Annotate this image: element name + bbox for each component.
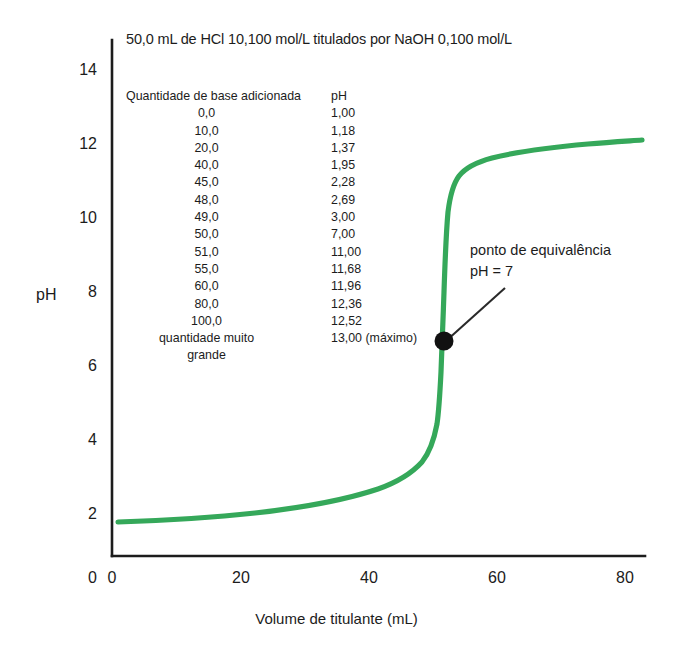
y-tick-8: 8 xyxy=(57,283,97,301)
table-row-tail: quantidade muito 13,00 (máximo) xyxy=(126,330,451,347)
y-tick-4: 4 xyxy=(57,431,97,449)
x-axis-label: Volume de titulante (mL) xyxy=(0,610,673,627)
y-tick-14: 14 xyxy=(57,61,97,79)
table-row: 55,0 11,68 xyxy=(126,261,451,278)
cell-ph: 12,52 xyxy=(331,313,451,330)
annotation-leader-line xyxy=(446,288,505,341)
cell-volume: 10,0 xyxy=(126,123,331,140)
table-row: 10,0 1,18 xyxy=(126,123,451,140)
table-header-volume: Quantidade de base adicionada xyxy=(126,88,331,105)
y-tick-12: 12 xyxy=(57,135,97,153)
table-row: 51,0 11,00 xyxy=(126,244,451,261)
table-row: 40,0 1,95 xyxy=(126,157,451,174)
cell-ph: 1,95 xyxy=(331,157,451,174)
x-tick-20: 20 xyxy=(216,569,266,587)
equivalence-point-annotation: ponto de equivalência pH = 7 xyxy=(470,240,611,282)
titration-curve-figure: 50,0 mL de HCl 10,100 mol/L titulados po… xyxy=(0,0,673,656)
cell-ph: 1,37 xyxy=(331,140,451,157)
cell-volume: 49,0 xyxy=(126,209,331,226)
x-tick-0: 0 xyxy=(87,569,137,587)
y-axis-label: pH xyxy=(36,286,56,304)
titration-data-table: Quantidade de base adicionada pH 0,0 1,0… xyxy=(126,88,451,365)
table-header-ph: pH xyxy=(331,88,451,105)
cell-ph: 1,00 xyxy=(331,105,451,122)
annotation-line-2: pH = 7 xyxy=(470,261,611,282)
y-tick-10: 10 xyxy=(57,209,97,227)
cell-ph: 2,69 xyxy=(331,192,451,209)
cell-volume: 100,0 xyxy=(126,313,331,330)
cell-ph-tail: 13,00 (máximo) xyxy=(331,330,451,347)
cell-ph: 7,00 xyxy=(331,226,451,243)
x-tick-60: 60 xyxy=(472,569,522,587)
table-row: 20,0 1,37 xyxy=(126,140,451,157)
cell-volume: 51,0 xyxy=(126,244,331,261)
cell-volume: 50,0 xyxy=(126,226,331,243)
cell-volume: 48,0 xyxy=(126,192,331,209)
cell-ph: 11,68 xyxy=(331,261,451,278)
table-row: 80,0 12,36 xyxy=(126,296,451,313)
cell-volume: 80,0 xyxy=(126,296,331,313)
x-tick-80: 80 xyxy=(600,569,650,587)
cell-ph: 11,00 xyxy=(331,244,451,261)
cell-ph: 1,18 xyxy=(331,123,451,140)
table-row: 48,0 2,69 xyxy=(126,192,451,209)
table-row-tail-continued: grande xyxy=(126,347,451,364)
y-tick-6: 6 xyxy=(57,357,97,375)
y-tick-2: 2 xyxy=(57,505,97,523)
cell-ph: 2,28 xyxy=(331,174,451,191)
x-tick-40: 40 xyxy=(344,569,394,587)
table-row: 100,0 12,52 xyxy=(126,313,451,330)
table-row: 45,0 2,28 xyxy=(126,174,451,191)
cell-volume: 40,0 xyxy=(126,157,331,174)
table-row: 0,0 1,00 xyxy=(126,105,451,122)
cell-volume-tail-line-2: grande xyxy=(126,347,331,364)
table-row: 49,0 3,00 xyxy=(126,209,451,226)
cell-volume: 60,0 xyxy=(126,278,331,295)
cell-volume: 20,0 xyxy=(126,140,331,157)
cell-ph: 3,00 xyxy=(331,209,451,226)
cell-ph-tail-empty xyxy=(331,347,451,364)
table-row: 50,0 7,00 xyxy=(126,226,451,243)
annotation-line-1: ponto de equivalência xyxy=(470,240,611,261)
table-row: 60,0 11,96 xyxy=(126,278,451,295)
cell-volume: 0,0 xyxy=(126,105,331,122)
cell-ph: 11,96 xyxy=(331,278,451,295)
table-header-row: Quantidade de base adicionada pH xyxy=(126,88,451,105)
cell-volume: 55,0 xyxy=(126,261,331,278)
cell-volume: 45,0 xyxy=(126,174,331,191)
cell-ph: 12,36 xyxy=(331,296,451,313)
cell-volume-tail-line-1: quantidade muito xyxy=(126,330,331,347)
